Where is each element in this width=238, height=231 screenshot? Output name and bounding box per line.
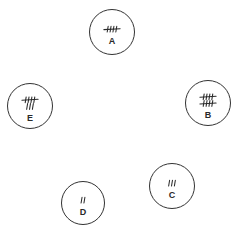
- node-label: E: [8, 114, 52, 123]
- tally-marks-icon: [90, 10, 134, 54]
- node-label: C: [150, 191, 194, 200]
- node-b: B: [185, 80, 231, 126]
- tally-marks-icon: [62, 182, 104, 224]
- node-a: A: [89, 9, 135, 55]
- node-label: D: [62, 208, 104, 217]
- tally-marks-icon: [150, 164, 194, 208]
- node-label: B: [186, 111, 230, 120]
- node-e: E: [7, 83, 53, 129]
- node-label: A: [90, 37, 134, 46]
- node-c: C: [149, 163, 195, 209]
- node-d: D: [61, 181, 105, 225]
